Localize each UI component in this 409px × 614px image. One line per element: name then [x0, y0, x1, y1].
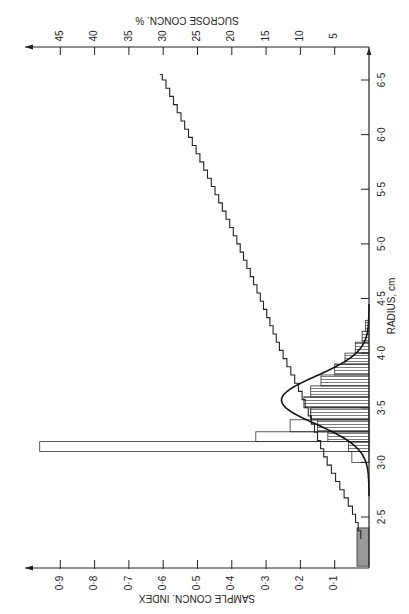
radius-tick-label: 5·0	[376, 236, 387, 251]
sample-tick-label: 0·3	[260, 575, 271, 590]
histogram-bar	[335, 364, 369, 375]
histogram-bar	[40, 442, 369, 452]
histogram-bar	[318, 420, 369, 432]
sample-tick-label: 0·7	[123, 575, 134, 590]
curves	[160, 75, 369, 539]
sucrose-tick-label: 5	[328, 33, 339, 39]
sucrose-tick-label: 40	[88, 30, 99, 42]
sucrose-axis-arrow-icon	[25, 45, 33, 50]
sample-tick-label: 0·1	[328, 575, 339, 590]
sample-axis-title: SAMPLE CONCN. INDEX	[139, 593, 255, 604]
sucrose-tick-label: 25	[191, 30, 202, 42]
sample-tick-label: 0·8	[88, 575, 99, 590]
sample-tick-label: 0·5	[191, 575, 202, 590]
axis-labels: 2·53·03·54·04·55·05·56·06·50·10·20·30·40…	[54, 15, 397, 604]
radius-axis-title: RADIUS, cm	[386, 278, 397, 335]
sample-tick-label: 0·2	[294, 575, 305, 590]
histogram-bar	[304, 397, 369, 408]
sample-tick-label: 0·6	[157, 575, 168, 590]
sucrose-tick-label: 30	[157, 30, 168, 42]
radius-axis-arrow-icon	[367, 48, 372, 55]
radius-tick-label: 3·5	[376, 400, 387, 415]
sucrose-axis-title: SUCROSE CONCN. %	[135, 15, 238, 26]
radius-tick-label: 5·5	[376, 182, 387, 197]
histogram-bars	[40, 320, 369, 566]
histogram-bar	[311, 386, 369, 397]
histogram-bar	[321, 375, 369, 386]
radius-tick-label: 2·5	[376, 509, 387, 524]
radius-tick-label: 4·0	[376, 345, 387, 360]
axes	[25, 45, 372, 571]
histogram-bar	[311, 408, 369, 420]
sucrose-tick-label: 10	[294, 30, 305, 42]
sucrose-gradient-step-curve	[160, 75, 361, 539]
radius-tick-label: 6·5	[376, 72, 387, 87]
sucrose-tick-label: 35	[123, 30, 134, 42]
sample-tick-label: 0·9	[54, 575, 65, 590]
histogram-bar	[357, 528, 369, 566]
radius-tick-label: 6·0	[376, 127, 387, 142]
sucrose-tick-label: 45	[54, 30, 65, 42]
radius-tick-label: 3·0	[376, 455, 387, 470]
sucrose-tick-label: 20	[225, 30, 236, 42]
sample-tick-label: 0·4	[225, 575, 236, 590]
sucrose-tick-label: 15	[260, 30, 271, 42]
sample-axis-arrow-icon	[25, 566, 33, 571]
rotated-histogram-chart: 2·53·03·54·04·55·05·56·06·50·10·20·30·40…	[0, 0, 409, 614]
